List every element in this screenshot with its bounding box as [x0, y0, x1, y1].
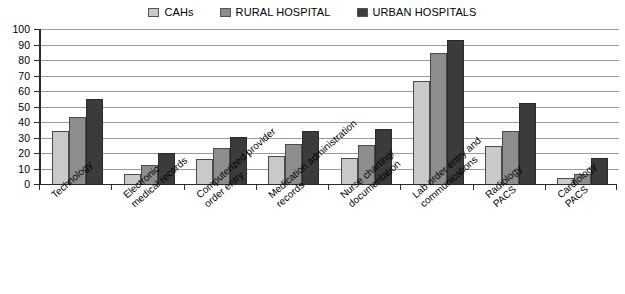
y-axis-tick-label: 80	[18, 55, 30, 65]
legend-label: CAHs	[164, 7, 193, 18]
legend-entry-1: RURAL HOSPITAL	[220, 7, 331, 18]
y-axis-tick-label: 100	[12, 24, 30, 34]
chart-legend: CAHsRURAL HOSPITALURBAN HOSPITALS	[0, 7, 625, 18]
legend-swatch-icon	[220, 8, 231, 17]
bar-group	[41, 29, 113, 184]
legend-label: RURAL HOSPITAL	[236, 7, 331, 18]
legend-swatch-icon	[357, 8, 368, 17]
y-axis-tick-label: 30	[18, 133, 30, 143]
bar-group	[475, 29, 547, 184]
y-axis-tick-label: 60	[18, 86, 30, 96]
bar	[413, 81, 430, 184]
y-axis-tick-label: 0	[24, 179, 30, 189]
y-axis-tick-label: 70	[18, 71, 30, 81]
legend-swatch-icon	[148, 8, 159, 17]
bar-chart: CAHsRURAL HOSPITALURBAN HOSPITALS 010203…	[0, 0, 625, 294]
y-axis-tick-label: 90	[18, 40, 30, 50]
y-axis-tick-label: 50	[18, 102, 30, 112]
y-axis-tick-label: 40	[18, 117, 30, 127]
legend-entry-2: URBAN HOSPITALS	[357, 7, 477, 18]
y-axis-tick-label: 10	[18, 164, 30, 174]
x-axis-labels: TechnologyElectronic medical recordsComp…	[0, 190, 625, 294]
y-axis: 0102030405060708090100	[0, 29, 39, 186]
bar-group	[547, 29, 619, 184]
y-axis-tick-label: 20	[18, 148, 30, 158]
legend-label: URBAN HOSPITALS	[373, 7, 477, 18]
legend-entry-0: CAHs	[148, 7, 193, 18]
